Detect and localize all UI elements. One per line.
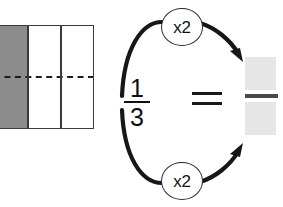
multiplier-badge-bottom-label: x2 xyxy=(173,173,190,190)
fraction-blank-answer[interactable] xyxy=(245,57,278,135)
multiplier-badge-top-label: x2 xyxy=(173,19,190,36)
blank-denominator-box[interactable] xyxy=(245,102,276,135)
blank-numerator-box[interactable] xyxy=(245,57,276,90)
fraction-right-bar xyxy=(245,94,278,98)
multiplier-badge-bottom: x2 xyxy=(161,162,203,200)
equals-sign xyxy=(192,89,222,107)
arrow-bottom-right-segment xyxy=(200,152,238,182)
equals-bar-top xyxy=(192,92,222,95)
fraction-left-numerator: 1 xyxy=(124,76,150,100)
area-model-rectangle xyxy=(0,25,94,129)
equation-group: 1 3 x2 x2 xyxy=(110,0,283,207)
area-model-outline xyxy=(0,25,94,129)
arrow-top-right-segment xyxy=(200,23,238,53)
fraction-left-denominator: 3 xyxy=(124,105,150,129)
diagram-canvas: 1 3 x2 x2 xyxy=(0,0,283,207)
arrow-bottom-arrowhead xyxy=(230,143,243,157)
equals-bar-bottom xyxy=(192,102,222,105)
multiplier-badge-top: x2 xyxy=(161,8,203,46)
arrow-top-arrowhead xyxy=(230,48,243,62)
fraction-one-third: 1 3 xyxy=(124,76,150,129)
